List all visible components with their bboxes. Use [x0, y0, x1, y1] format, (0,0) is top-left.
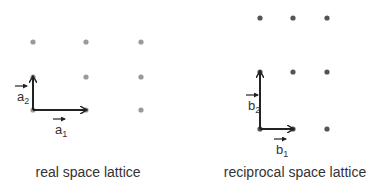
- real-space-caption: real space lattice: [35, 164, 140, 180]
- real-lattice-point: [138, 74, 143, 79]
- reciprocal-lattice-point: [324, 69, 329, 74]
- vector-b2-label: b2: [248, 98, 260, 115]
- reciprocal-lattice-point: [290, 15, 295, 20]
- real-lattice-point: [138, 107, 143, 112]
- real-lattice-point: [30, 39, 35, 44]
- real-lattice-point: [83, 74, 88, 79]
- vector-a2-label: a2: [17, 89, 29, 106]
- reciprocal-lattice-point: [324, 126, 329, 131]
- reciprocal-lattice-point: [290, 69, 295, 74]
- reciprocal-space-lattice: b1b2: [246, 15, 330, 159]
- lattice-diagram: a1a2 b1b2: [0, 0, 370, 188]
- real-lattice-point: [83, 39, 88, 44]
- reciprocal-lattice-point: [324, 15, 329, 20]
- real-space-lattice: a1a2: [15, 39, 144, 139]
- vector-a1-label: a1: [55, 122, 67, 139]
- vector-b1-label: b1: [276, 142, 288, 159]
- real-lattice-point: [138, 39, 143, 44]
- reciprocal-lattice-point: [257, 15, 262, 20]
- reciprocal-space-caption: reciprocal space lattice: [224, 164, 366, 180]
